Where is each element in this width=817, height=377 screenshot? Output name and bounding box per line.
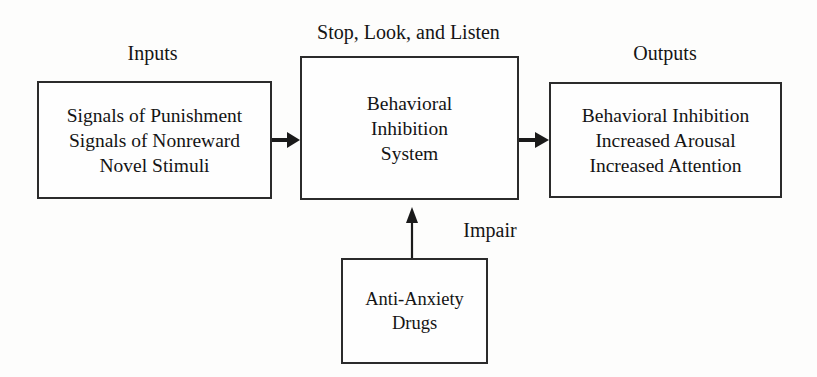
arrow-inputs-to-bis [272,129,302,151]
arrow-bis-to-outputs [519,129,551,151]
node-inputs-line-2: Signals of Nonreward [69,128,240,153]
caption-stop-look-and-listen: Stop, Look, and Listen [286,21,531,43]
caption-inputs: Inputs [60,42,245,64]
node-outputs: Behavioral Inhibition Increased Arousal … [549,82,782,198]
node-drugs-line-1: Anti-Anxiety [365,287,464,311]
node-outputs-line-3: Increased Attention [589,153,741,178]
edge-label-impair: Impair [450,219,530,241]
node-inputs-line-1: Signals of Punishment [67,103,243,128]
node-behavioral-inhibition-system: Behavioral Inhibition System [300,56,519,200]
node-bis-line-2: Inhibition [371,116,448,141]
node-bis-line-3: System [381,141,438,166]
node-inputs-line-3: Novel Stimuli [100,153,210,178]
arrow-drugs-to-bis [396,205,428,261]
node-outputs-line-1: Behavioral Inhibition [582,103,749,128]
node-anti-anxiety-drugs: Anti-Anxiety Drugs [341,258,488,364]
node-bis-line-1: Behavioral [367,91,453,116]
node-outputs-line-2: Increased Arousal [595,128,735,153]
node-drugs-line-2: Drugs [392,311,437,335]
caption-outputs: Outputs [565,42,765,64]
node-inputs: Signals of Punishment Signals of Nonrewa… [37,81,272,199]
diagram-canvas: Inputs Stop, Look, and Listen Outputs Si… [0,0,817,377]
